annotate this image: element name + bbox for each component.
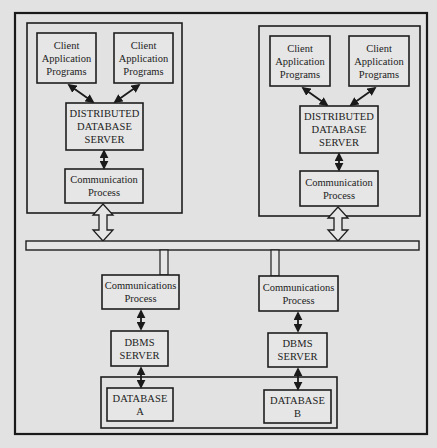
pipe-right — [271, 250, 279, 276]
site-left-client-2-label: Client Application Programs — [114, 33, 173, 83]
node-left-comm-label: Communications Process — [102, 275, 179, 309]
node-left-dbms-label: DBMS SERVER — [111, 331, 168, 366]
database-a-label: DATABASE A — [107, 388, 173, 421]
site-left-comm-label: Communication Process — [65, 169, 143, 203]
arrow-right-client1-dds — [303, 88, 327, 105]
network-bus — [26, 241, 419, 250]
arrow-left-client1-dds — [69, 85, 93, 102]
pipe-left — [160, 250, 168, 275]
database-b-label: DATABASE B — [264, 390, 331, 423]
site-right-client-1-label: Client Application Programs — [270, 36, 330, 86]
arrow-right-client2-dds — [351, 88, 375, 105]
site-right-client-2-label: Client Application Programs — [349, 36, 409, 86]
site-right-dds-label: DISTRIBUTED DATABASE SERVER — [300, 106, 378, 153]
arrow-left-client2-dds — [115, 85, 139, 102]
site-left-client-1-label: Client Application Programs — [37, 33, 96, 83]
site-right-comm-label: Communication Process — [300, 171, 378, 206]
node-right-dbms-label: DBMS SERVER — [268, 333, 327, 367]
node-right-comm-label: Communications Process — [259, 276, 338, 311]
hollow-arrow-left — [93, 204, 113, 241]
site-left-dds-label: DISTRIBUTED DATABASE SERVER — [66, 103, 143, 150]
hollow-arrow-right — [328, 207, 348, 241]
